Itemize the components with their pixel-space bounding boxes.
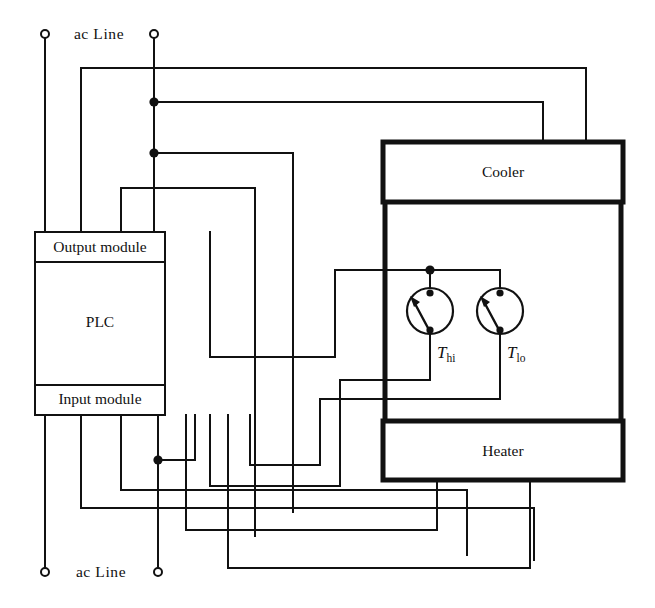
schematic-diagram: ac Line Output module PLC Input module — [0, 0, 655, 608]
wire-heater-return-left — [186, 480, 437, 530]
ac-line-bottom-right-terminal — [154, 568, 162, 576]
schematic-canvas: ac Line Output module PLC Input module — [0, 0, 655, 608]
junction-dot-upper — [149, 97, 158, 106]
junction-dot-thermostat-bus — [425, 265, 434, 274]
wire-heater-return-right — [228, 480, 530, 568]
plc-assembly: Output module PLC Input module — [35, 232, 165, 415]
ac-line-bottom-label: ac Line — [76, 563, 126, 580]
junction-dot-middle — [149, 148, 158, 157]
t-lo-subscript: lo — [516, 352, 525, 364]
thermostat-t-lo: Tlo — [477, 288, 526, 364]
ac-line-top-right-terminal — [150, 30, 158, 38]
heater-label: Heater — [482, 442, 524, 459]
output-module-label: Output module — [53, 238, 147, 255]
t-lo-label: Tlo — [507, 343, 526, 364]
plc-label: PLC — [86, 313, 114, 330]
wire-feed-cooler-left — [154, 102, 543, 142]
t-hi-top-contact — [426, 289, 433, 296]
input-module-label: Input module — [58, 390, 141, 407]
ac-line-top-left-terminal — [41, 30, 49, 38]
t-hi-subscript: hi — [446, 352, 455, 364]
ac-line-top-group: ac Line — [41, 25, 158, 42]
thermostat-t-hi: Thi — [407, 288, 455, 364]
wire-thermostat-common-to-left — [210, 270, 335, 357]
ac-line-bottom-group: ac Line — [41, 563, 162, 580]
ac-line-top-label: ac Line — [74, 25, 124, 42]
ac-line-bottom-left-terminal — [41, 568, 49, 576]
wire-junction-153-down — [154, 153, 293, 512]
t-lo-top-contact — [496, 289, 503, 296]
cooler-label: Cooler — [482, 163, 525, 180]
t-hi-label: Thi — [437, 343, 455, 364]
